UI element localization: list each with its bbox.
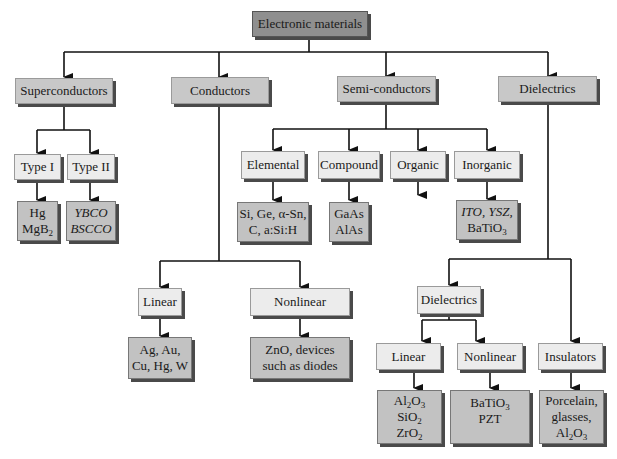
insulators-label: Insulators <box>545 349 596 365</box>
insulators-examples: Porcelain, glasses, Al2O3 <box>539 390 604 444</box>
elemental-examples: Si, Ge, α-Sn, C, a:Si:H <box>237 202 309 242</box>
conductors-node: Conductors <box>171 77 269 104</box>
type-ii-label: Type II <box>72 159 110 175</box>
dielectrics-linear-examples: Al2O3 SiO2 ZrO2 <box>377 390 442 444</box>
example-text: MgB2 <box>22 221 53 237</box>
dielectrics-node: Dielectrics <box>498 76 597 102</box>
nonlinear-label: Nonlinear <box>274 294 326 310</box>
organic-label: Organic <box>397 157 439 173</box>
compound-node: Compound <box>318 151 380 179</box>
example-text: Al2O3 <box>394 393 425 409</box>
dielectrics-nonlinear-node: Nonlinear <box>457 343 523 370</box>
linear-label: Linear <box>143 294 177 310</box>
dielectrics-label: Dielectrics <box>519 81 575 97</box>
type-i-label: Type I <box>21 159 54 175</box>
example-text: SiO2 <box>397 409 422 425</box>
semiconductors-node: Semi-conductors <box>337 76 436 102</box>
insulators-node: Insulators <box>538 343 603 370</box>
example-text: ITO, YSZ, <box>461 204 512 220</box>
example-text: BSCCO <box>70 221 111 237</box>
type-ii-node: Type II <box>67 154 115 180</box>
conductors-linear-node: Linear <box>138 288 182 316</box>
dielectrics-sub-node: Dielectrics <box>417 286 481 314</box>
example-text: C, a:Si:H <box>249 222 297 238</box>
organic-node: Organic <box>390 151 446 179</box>
compound-label: Compound <box>320 157 378 173</box>
example-text: PZT <box>478 411 501 427</box>
electronic-materials-diagram: Electronic materials Superconductors Con… <box>0 0 617 459</box>
dielectrics-sub-label: Dielectrics <box>421 292 477 308</box>
example-text: YBCO <box>74 205 107 221</box>
conductors-nonlinear-examples: ZnO, devices such as diodes <box>250 337 350 379</box>
dielectrics-linear-node: Linear <box>376 343 441 370</box>
dielectrics-nonlinear-examples: BaTiO3 PZT <box>450 390 530 444</box>
type-i-node: Type I <box>14 154 61 180</box>
conductors-label: Conductors <box>190 83 250 99</box>
example-text: glasses, <box>551 409 591 425</box>
example-text: Cu, Hg, W <box>132 358 188 374</box>
example-text: BaTiO3 <box>467 220 506 236</box>
compound-examples: GaAs AlAs <box>329 202 369 242</box>
type-i-examples: Hg MgB2 <box>17 201 58 241</box>
superconductors-label: Superconductors <box>20 83 107 99</box>
example-text: GaAs <box>334 206 364 222</box>
example-text: Ag, Au, <box>140 342 181 358</box>
example-text: Hg <box>30 205 46 221</box>
example-text: such as diodes <box>262 358 337 374</box>
inorganic-examples: ITO, YSZ, BaTiO3 <box>456 200 518 240</box>
example-text: Si, Ge, α-Sn, <box>239 206 306 222</box>
elemental-label: Elemental <box>247 157 300 173</box>
inorganic-label: Inorganic <box>462 157 512 173</box>
nonlinear-label: Nonlinear <box>464 349 516 365</box>
type-ii-examples: YBCO BSCCO <box>66 201 116 241</box>
conductors-nonlinear-node: Nonlinear <box>250 288 350 316</box>
semiconductors-label: Semi-conductors <box>342 81 430 97</box>
example-text: ZnO, devices <box>265 342 334 358</box>
example-text: Porcelain, <box>545 393 597 409</box>
conductors-linear-examples: Ag, Au, Cu, Hg, W <box>128 337 192 379</box>
example-text: Al2O3 <box>556 425 587 441</box>
superconductors-node: Superconductors <box>15 78 113 104</box>
example-text: AlAs <box>335 222 362 238</box>
elemental-node: Elemental <box>241 151 305 179</box>
example-text: ZrO2 <box>396 425 422 441</box>
example-text: BaTiO3 <box>470 395 509 411</box>
root-node: Electronic materials <box>252 11 368 37</box>
inorganic-node: Inorganic <box>454 151 520 179</box>
root-label: Electronic materials <box>258 16 362 32</box>
linear-label: Linear <box>392 349 426 365</box>
